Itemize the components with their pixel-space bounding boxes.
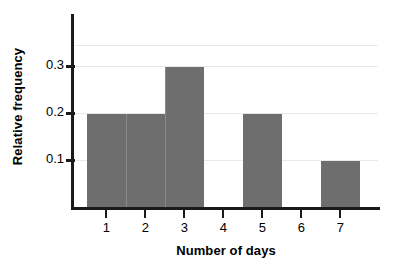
y-axis-tick (66, 65, 75, 68)
x-axis-tick-label: 6 (289, 220, 313, 235)
x-axis-title: Number of days (74, 243, 378, 258)
y-axis-tick-label: 0.3 (32, 57, 64, 72)
x-axis-tick (222, 209, 224, 218)
x-axis-tick-label: 7 (328, 220, 352, 235)
x-axis-tick-label: 2 (133, 220, 157, 235)
plot-area (74, 16, 378, 208)
bar (165, 67, 204, 208)
x-axis-tick-label: 4 (211, 220, 235, 235)
bar (87, 114, 126, 208)
y-axis-tick (66, 159, 75, 162)
bar (243, 114, 282, 208)
x-axis-tick (105, 209, 107, 218)
x-axis-tick-label: 1 (94, 220, 118, 235)
x-axis-line (72, 207, 380, 210)
chart-figure: Relative frequency 0.10.20.31234567 Numb… (0, 0, 396, 275)
x-axis-tick-label: 5 (250, 220, 274, 235)
x-axis-tick (300, 209, 302, 218)
x-axis-tick (183, 209, 185, 218)
y-axis-title: Relative frequency (0, 0, 36, 213)
y-axis-title-text: Relative frequency (11, 48, 26, 165)
y-axis-tick (66, 112, 75, 115)
x-axis-tick (339, 209, 341, 218)
y-axis-tick-label: 0.1 (32, 151, 64, 166)
bar (126, 114, 165, 208)
bar-series (74, 16, 378, 208)
x-axis-tick (261, 209, 263, 218)
x-axis-tick (144, 209, 146, 218)
bar (321, 161, 360, 208)
x-axis-tick-label: 3 (172, 220, 196, 235)
y-axis-tick-label: 0.2 (32, 104, 64, 119)
